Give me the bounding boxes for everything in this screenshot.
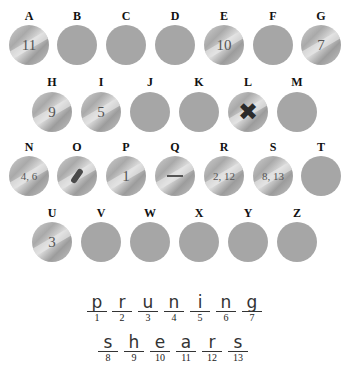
coin-value: 1: [122, 168, 130, 185]
coin-label: V: [86, 206, 116, 221]
coin-label: J: [135, 75, 165, 90]
coin-label: C: [111, 9, 141, 24]
blank-index: 3: [137, 312, 159, 324]
scratch-coin-i[interactable]: 5: [81, 92, 121, 132]
scratch-coin-k[interactable]: [179, 92, 219, 132]
blank-index: 7: [241, 312, 263, 324]
coin-value: 3: [48, 234, 56, 251]
handwritten-letter: s: [227, 333, 249, 351]
blank-index: 13: [227, 352, 249, 364]
handwritten-letter: e: [149, 333, 171, 351]
coin-label: B: [62, 9, 92, 24]
scratch-coin-v[interactable]: [81, 222, 121, 262]
handwritten-letter: n: [215, 293, 237, 311]
handwritten-letter: r: [201, 333, 223, 351]
blank-index: 8: [97, 352, 119, 364]
scratch-coin-o[interactable]: [57, 156, 97, 196]
coin-label: G: [306, 9, 336, 24]
coin-label: D: [160, 9, 190, 24]
scratch-coin-z[interactable]: [277, 222, 317, 262]
answer-blank[interactable]: g7: [241, 293, 263, 324]
handwritten-letter: h: [123, 333, 145, 351]
coin-label: P: [111, 140, 141, 155]
scratch-coin-x[interactable]: [179, 222, 219, 262]
handwritten-letter: s: [97, 333, 119, 351]
coin-label: L: [233, 75, 263, 90]
answer-blank[interactable]: r2: [111, 293, 133, 324]
handwritten-letter: a: [175, 333, 197, 351]
coin-value: 11: [22, 37, 36, 54]
answer-blank[interactable]: a11: [175, 333, 197, 364]
answer-blank[interactable]: s13: [227, 333, 249, 364]
scratch-coin-j[interactable]: [130, 92, 170, 132]
coin-label: F: [258, 9, 288, 24]
blank-index: 6: [215, 312, 237, 324]
blank-index: 1: [86, 312, 108, 324]
answer-blank[interactable]: n4: [163, 293, 185, 324]
coin-label: E: [209, 9, 239, 24]
answer-blank[interactable]: e10: [149, 333, 171, 364]
coin-label: U: [37, 206, 67, 221]
scratch-coin-c[interactable]: [106, 25, 146, 65]
handwritten-letter: p: [86, 293, 108, 311]
scratch-coin-d[interactable]: [155, 25, 195, 65]
scratch-coin-u[interactable]: 3: [32, 222, 72, 262]
answer-blank[interactable]: h9: [123, 333, 145, 364]
blank-index: 5: [189, 312, 211, 324]
coin-label: Y: [233, 206, 263, 221]
coin-label: K: [184, 75, 214, 90]
scratch-coin-y[interactable]: [228, 222, 268, 262]
answer-blank[interactable]: r12: [201, 333, 223, 364]
coin-label: X: [184, 206, 214, 221]
coin-label: I: [86, 75, 116, 90]
answer-blank[interactable]: p1: [86, 293, 108, 324]
coin-value: 4, 6: [21, 170, 38, 182]
coin-label: M: [282, 75, 312, 90]
scratch-coin-l[interactable]: ✖: [228, 92, 268, 132]
coin-value: 10: [217, 37, 232, 54]
scratch-coin-a[interactable]: 11: [9, 25, 49, 65]
handwritten-letter: r: [111, 293, 133, 311]
answer-blank[interactable]: n6: [215, 293, 237, 324]
scratch-coin-r[interactable]: 2, 12: [204, 156, 244, 196]
answer-blank[interactable]: i5: [189, 293, 211, 324]
handwritten-letter: u: [137, 293, 159, 311]
scratch-coin-e[interactable]: 10: [204, 25, 244, 65]
scratch-coin-f[interactable]: [253, 25, 293, 65]
coin-label: W: [135, 206, 165, 221]
scratch-coin-w[interactable]: [130, 222, 170, 262]
coin-value: 9: [48, 104, 56, 121]
cross-icon: ✖: [238, 98, 258, 126]
coin-label: N: [14, 140, 44, 155]
scratch-coin-m[interactable]: [277, 92, 317, 132]
answer-blank[interactable]: u3: [137, 293, 159, 324]
coin-label: Z: [282, 206, 312, 221]
scratch-coin-t[interactable]: [301, 156, 341, 196]
scratch-coin-s[interactable]: 8, 13: [253, 156, 293, 196]
coin-value: 2, 12: [213, 170, 235, 182]
coin-label: R: [209, 140, 239, 155]
handwritten-letter: i: [189, 293, 211, 311]
scratch-coin-n[interactable]: 4, 6: [9, 156, 49, 196]
scratch-coin-h[interactable]: 9: [32, 92, 72, 132]
scratch-coin-b[interactable]: [57, 25, 97, 65]
answer-blank[interactable]: s8: [97, 333, 119, 364]
blank-index: 2: [111, 312, 133, 324]
coin-value: 7: [317, 37, 325, 54]
coin-label: A: [14, 9, 44, 24]
coin-label: S: [258, 140, 288, 155]
blank-index: 11: [175, 352, 197, 364]
scratch-mark-icon: [167, 175, 183, 177]
handwritten-letter: g: [241, 293, 263, 311]
coin-label: H: [37, 75, 67, 90]
blank-index: 12: [201, 352, 223, 364]
scratch-coin-q[interactable]: [155, 156, 195, 196]
coin-label: Q: [160, 140, 190, 155]
scratch-coin-g[interactable]: 7: [301, 25, 341, 65]
scratch-coin-p[interactable]: 1: [106, 156, 146, 196]
coin-label: O: [62, 140, 92, 155]
handwritten-letter: n: [163, 293, 185, 311]
coin-label: T: [306, 140, 336, 155]
blank-index: 10: [149, 352, 171, 364]
coin-value: 5: [97, 104, 105, 121]
